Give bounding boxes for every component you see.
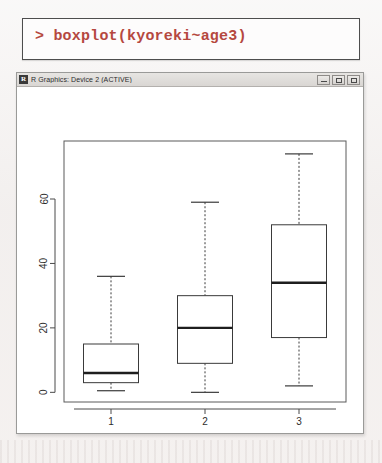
iqr-box [84, 344, 139, 383]
x-axis-label: 2 [202, 416, 208, 427]
close-button[interactable] [347, 75, 360, 85]
window-title: R Graphics: Device 2 (ACTIVE) [31, 76, 317, 83]
y-axis-label: 40 [39, 257, 50, 269]
boxplot-figure: 0204060123 [17, 87, 363, 433]
iqr-box [178, 296, 233, 364]
boxplot-box [272, 154, 327, 386]
console-command-text: > boxplot(kyoreki~age3) [35, 28, 247, 45]
y-axis-label: 60 [39, 193, 50, 205]
y-axis-label: 0 [39, 389, 50, 395]
console-command-box: > boxplot(kyoreki~age3) [22, 18, 360, 60]
r-graphics-window: R R Graphics: Device 2 (ACTIVE) 02040601… [16, 72, 364, 434]
iqr-box [272, 225, 327, 338]
r-logo-icon: R [19, 75, 28, 84]
x-axis-label: 3 [296, 416, 302, 427]
window-controls [317, 75, 360, 85]
minimize-button[interactable] [317, 75, 330, 85]
window-titlebar[interactable]: R R Graphics: Device 2 (ACTIVE) [17, 73, 363, 87]
boxplot-box [178, 202, 233, 392]
maximize-button[interactable] [332, 75, 345, 85]
x-axis-label: 1 [108, 416, 114, 427]
boxplot-box [84, 276, 139, 390]
y-axis-label: 20 [39, 322, 50, 334]
scan-artifact-strip [0, 440, 382, 463]
plot-canvas: 0204060123 [17, 87, 363, 433]
